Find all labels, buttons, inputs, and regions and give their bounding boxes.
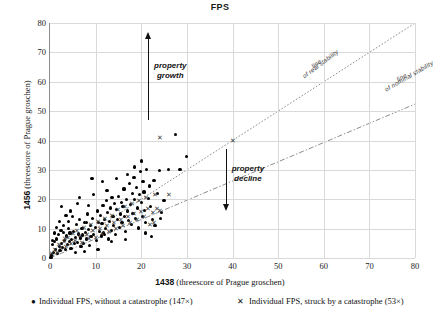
data-point-without-catastrophe [131,192,134,195]
data-point-struck-by-catastrophe: ✕ [140,213,147,220]
gridline-vertical [415,23,416,258]
data-point-without-catastrophe [69,209,72,212]
x-tick-label: 30 [174,261,200,271]
data-point-without-catastrophe [96,209,99,212]
gridline-horizontal [50,258,415,259]
data-point-without-catastrophe [53,231,56,234]
x-tick-label: 50 [265,261,291,271]
chart-title: FPS [0,2,440,12]
data-point-without-catastrophe [69,247,72,250]
data-point-without-catastrophe [105,189,108,192]
chart-legend: ● Individual FPS, without a catastrophe … [0,296,440,312]
data-point-without-catastrophe [148,184,151,187]
x-tick-label: 70 [356,261,382,271]
plot-area: ✕✕✕✕✕✕✕✕✕✕✕✕✕✕✕✕✕✕✕✕✕✕✕✕✕✕✕✕✕✕✕✕✕✕✕✕✕✕✕✕… [50,23,415,258]
data-point-without-catastrophe [58,220,61,223]
data-point-without-catastrophe [133,165,136,168]
annotation-property-decline-line1: property [232,164,264,173]
data-point-without-catastrophe [152,179,155,182]
data-point-without-catastrophe [178,168,181,171]
data-point-without-catastrophe [140,159,143,162]
x-tick-label: 60 [311,261,337,271]
data-point-without-catastrophe [142,190,145,193]
x-tick-label: 20 [128,261,154,271]
data-point-without-catastrophe [57,233,60,236]
annotation-property-growth: property growth [154,61,186,81]
data-point-struck-by-catastrophe: ✕ [229,137,236,144]
data-point-without-catastrophe [141,180,144,183]
legend-dot-marker: ● [31,297,36,306]
x-tick-label: 80 [402,261,428,271]
x-tick-label: 0 [37,261,63,271]
data-point-without-catastrophe [128,182,131,185]
annotation-property-decline-line2: decline [234,174,262,183]
data-point-without-catastrophe [55,226,58,229]
data-point-struck-by-catastrophe: ✕ [157,207,164,214]
data-point-without-catastrophe [64,214,67,217]
gridline-vertical [278,23,279,258]
gridline-vertical [369,23,370,258]
x-axis-title-year: 1438 [155,277,174,287]
data-point-without-catastrophe [101,204,104,207]
x-axis-title-unit: (threescore of Prague groschen) [174,277,284,287]
data-point-without-catastrophe [75,223,78,226]
data-point-without-catastrophe [137,226,140,229]
data-point-without-catastrophe [51,239,54,242]
data-point-without-catastrophe [162,199,165,202]
data-point-struck-by-catastrophe: ✕ [151,191,158,198]
legend-label-struck-by-catastrophe: Individual FPS, struck by a catastrophe … [249,296,404,306]
x-axis-title: 1438 (threescore of Prague groschen) [0,277,440,287]
data-point-without-catastrophe [126,173,129,176]
x-tick-label: 10 [83,261,109,271]
gridline-vertical [141,23,142,258]
arrow-down-decline [226,149,227,205]
data-point-without-catastrophe [83,250,86,253]
data-point-without-catastrophe [117,195,120,198]
chart-root: FPS ✕✕✕✕✕✕✕✕✕✕✕✕✕✕✕✕✕✕✕✕✕✕✕✕✕✕✕✕✕✕✕✕✕✕✕✕… [0,0,440,318]
x-tick-label: 40 [220,261,246,271]
y-axis-title-year: 1456 [22,191,32,210]
data-point-without-catastrophe [132,176,135,179]
data-point-struck-by-catastrophe: ✕ [151,219,158,226]
y-tick-label: 80 [20,18,46,28]
y-axis-title-unit: (threescore of Prague groschen) [22,80,32,190]
annotation-property-decline: property decline [232,164,264,184]
data-point-without-catastrophe [67,220,70,223]
arrow-up-growth [148,38,149,120]
legend-cross-marker: ✕ [237,297,244,306]
annotation-property-growth-line2: growth [157,71,184,80]
data-point-struck-by-catastrophe: ✕ [165,191,172,198]
gridline-vertical [187,23,188,258]
data-point-without-catastrophe [159,217,162,220]
legend-label-without-catastrophe: Individual FPS, without a catastrophe (1… [39,296,193,306]
data-point-without-catastrophe [74,251,77,254]
annotation-property-growth-line1: property [154,61,186,70]
data-point-without-catastrophe [96,248,99,251]
data-point-without-catastrophe [109,206,112,209]
data-point-without-catastrophe [86,212,89,215]
data-point-without-catastrophe [139,170,142,173]
data-point-struck-by-catastrophe: ✕ [156,134,163,141]
data-point-without-catastrophe [122,187,125,190]
data-point-without-catastrophe [90,177,93,180]
data-point-struck-by-catastrophe: ✕ [142,194,149,201]
y-axis-title: 1456 (threescore of Prague groschen) [22,30,32,260]
